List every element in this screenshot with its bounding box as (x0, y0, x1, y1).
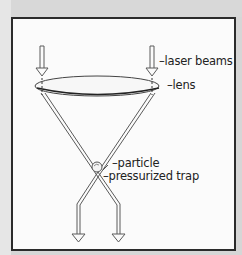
label-lens: –lens (167, 79, 195, 91)
lens-icon (35, 76, 159, 96)
label-particle: –particle (112, 157, 159, 169)
incoming-arrow-left-icon (36, 46, 48, 76)
label-pressurized-trap: –pressurized trap (103, 170, 199, 182)
label-laser-beams: –laser beams (159, 55, 233, 67)
incoming-arrow-right-icon (146, 46, 158, 76)
diagram-canvas (0, 0, 242, 255)
particle-icon (92, 162, 102, 172)
